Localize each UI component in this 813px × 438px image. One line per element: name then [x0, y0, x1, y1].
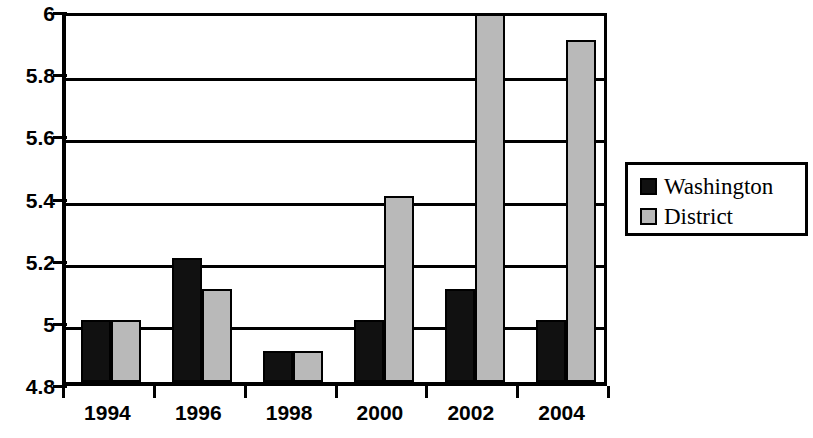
gridline: [66, 78, 604, 81]
y-axis-tick-label: 5.6: [3, 127, 55, 148]
bar-chart: 4.855.25.45.65.86 1994199619982000200220…: [0, 0, 813, 438]
x-axis-tick-label: 1998: [266, 401, 313, 425]
legend-item-label: Washington: [664, 175, 773, 198]
x-axis-tick-mark: [516, 386, 519, 398]
x-axis-tick-mark: [607, 386, 610, 398]
y-axis-tick-mark: [53, 74, 67, 77]
gridline: [66, 140, 604, 143]
chart-legend: WashingtonDistrict: [625, 162, 808, 236]
bar-washington-1994: [81, 320, 111, 382]
x-axis-tick-mark: [153, 386, 156, 398]
legend-item-district[interactable]: District: [640, 201, 805, 231]
y-axis-tick-mark: [53, 323, 67, 326]
bar-district-2004: [566, 40, 596, 382]
x-axis-tick-label: 2002: [447, 401, 494, 425]
plot-area: [62, 13, 607, 386]
x-axis-tick-label: 1994: [84, 401, 131, 425]
x-axis-tick-mark: [244, 386, 247, 398]
y-axis-tick-mark: [53, 385, 67, 388]
y-axis-tick-mark: [53, 12, 67, 15]
y-axis-tick-label: 5.2: [3, 251, 55, 272]
gray-square-swatch: [640, 208, 657, 225]
y-axis: 4.855.25.45.65.86: [0, 0, 55, 438]
y-axis-tick-mark: [53, 261, 67, 264]
x-axis-tick-label: 2004: [538, 401, 585, 425]
bar-district-2000: [384, 196, 414, 383]
y-axis-tick-label: 5.8: [3, 65, 55, 86]
gridline: [66, 265, 604, 268]
black-square-swatch: [640, 178, 657, 195]
legend-item-washington[interactable]: Washington: [640, 171, 805, 201]
bar-washington-2002: [445, 289, 475, 382]
gridline: [66, 327, 604, 330]
bar-district-1996: [202, 289, 232, 382]
y-axis-tick-label: 5: [3, 313, 55, 334]
bar-washington-1996: [172, 258, 202, 382]
x-axis-tick-mark: [335, 386, 338, 398]
gridline: [66, 203, 604, 206]
x-axis-tick-label: 2000: [357, 401, 404, 425]
x-axis-tick-mark: [425, 386, 428, 398]
y-axis-tick-label: 4.8: [3, 376, 55, 397]
bar-washington-1998: [263, 351, 293, 382]
y-axis-tick-mark: [53, 199, 67, 202]
y-axis-tick-mark: [53, 136, 67, 139]
bar-washington-2004: [536, 320, 566, 382]
y-axis-tick-label: 5.4: [3, 189, 55, 210]
bar-washington-2000: [354, 320, 384, 382]
x-axis-tick-label: 1996: [175, 401, 222, 425]
bar-district-1994: [111, 320, 141, 382]
bar-district-2002: [475, 13, 505, 382]
bar-district-1998: [293, 351, 323, 382]
legend-item-label: District: [664, 205, 733, 228]
y-axis-tick-label: 6: [3, 3, 55, 24]
